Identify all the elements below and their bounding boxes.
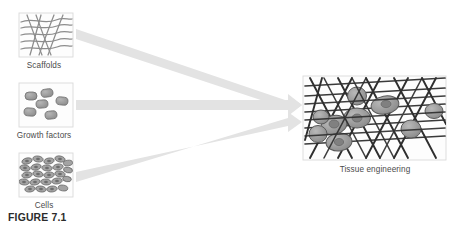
scaffolds-box: [19, 13, 73, 57]
scaffolds-label: Scaffolds: [0, 62, 88, 70]
cells-box: [18, 153, 73, 197]
tissue-engineering-diagram: [0, 0, 458, 231]
arrow-cells-to-tissue: [76, 112, 302, 182]
growth-factors-box: [19, 83, 73, 127]
growth-factors-label: Growth factors: [0, 132, 88, 140]
figure-7-1: Scaffolds Growth factors Cells Tissue en…: [0, 0, 458, 231]
figure-caption: FIGURE 7.1: [8, 212, 67, 223]
cells-label: Cells: [0, 202, 88, 210]
tissue-engineering-box: [303, 76, 446, 160]
tissue-engineering-label: Tissue engineering: [300, 166, 450, 174]
